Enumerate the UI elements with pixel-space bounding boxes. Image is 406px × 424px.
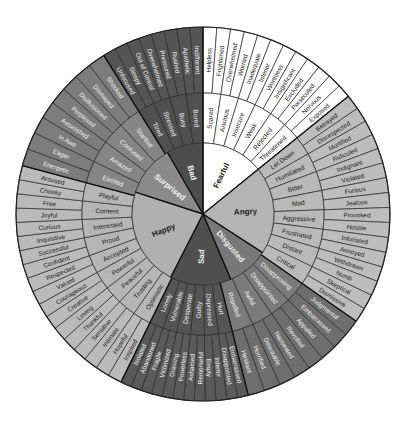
mid-label-content: Content: [95, 207, 118, 215]
outer-label-indifferent: Indifferent: [194, 46, 202, 75]
outer-label-free: Free: [43, 199, 57, 207]
outer-label-provoked: Provoked: [343, 211, 370, 218]
core-label-sad: Sad: [197, 249, 207, 264]
core-label-angry: Angry: [234, 207, 258, 217]
outer-label-remorseful: Remorseful: [197, 352, 205, 385]
outer-label-joyful: Joyful: [41, 211, 58, 219]
mid-label-mad: Mad: [292, 199, 306, 207]
mid-label-bored: Bored: [192, 109, 200, 127]
feelings-wheel: FearfulScaredHelplessFrightenedAnxiousOv…: [0, 0, 406, 424]
